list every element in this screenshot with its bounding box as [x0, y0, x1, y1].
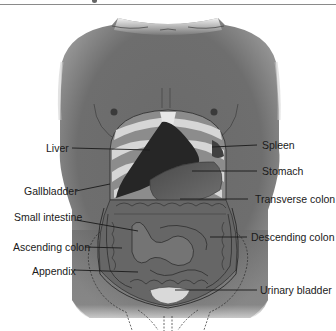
label-small-intestine: Small intestine — [14, 211, 82, 223]
label-urinary-bladder: Urinary bladder — [260, 284, 332, 296]
label-gallbladder: Gallbladder — [24, 185, 78, 197]
label-stomach: Stomach — [262, 165, 303, 177]
label-spleen: Spleen — [262, 139, 295, 151]
label-transverse-colon: Transverse colon — [255, 193, 335, 205]
label-descending-colon: Descending colon — [251, 231, 334, 243]
label-appendix: Appendix — [32, 265, 76, 277]
label-ascending-colon: Ascending colon — [13, 241, 90, 253]
label-liver: Liver — [46, 142, 69, 154]
